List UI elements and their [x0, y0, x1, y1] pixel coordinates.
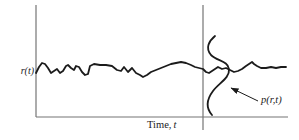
pdf-pointer-arrow	[231, 88, 258, 101]
x-axis-label-symbol: t	[173, 119, 176, 130]
pdf-curve	[208, 36, 230, 115]
x-axis-label: Time,t	[147, 119, 176, 130]
signal-waveform	[36, 62, 286, 77]
figure-canvas: r(t) Time,t p(r,t)	[0, 0, 299, 140]
y-axis-label: r(t)	[10, 65, 34, 76]
x-axis-label-name: Time,	[147, 119, 171, 130]
pdf-label: p(r,t)	[261, 94, 282, 105]
